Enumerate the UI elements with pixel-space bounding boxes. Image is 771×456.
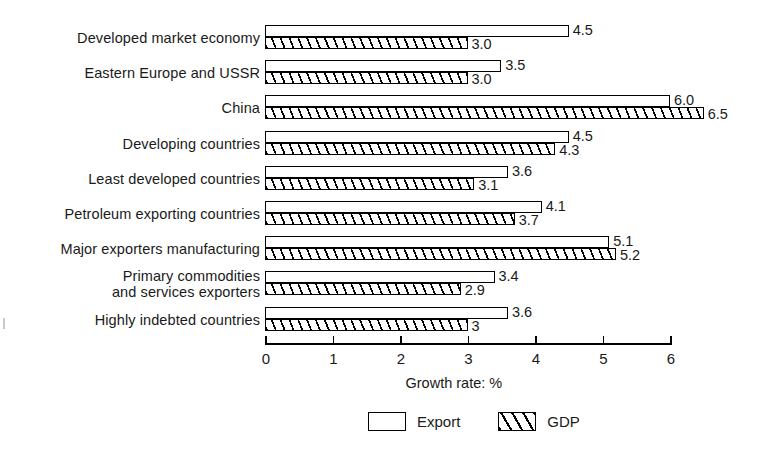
bar-export <box>265 95 670 107</box>
bar-chart: Developed market economyEastern Europe a… <box>0 0 771 456</box>
bar-value-label: 3.1 <box>478 178 498 192</box>
empty-rectangle-swatch <box>368 412 406 431</box>
legend-label: Export <box>417 413 460 430</box>
bar-value-label: 5.2 <box>620 248 640 262</box>
x-axis-tick <box>333 336 335 343</box>
bar-gdp <box>265 213 515 225</box>
bar-value-label: 3.7 <box>519 213 539 227</box>
category-label: Developing countries <box>123 136 260 152</box>
bar-value-label: 3.4 <box>499 269 519 283</box>
bar-value-label: 3.6 <box>512 164 532 178</box>
x-axis-tick-label: 4 <box>524 350 548 367</box>
x-axis-tick-label: 0 <box>254 350 278 367</box>
bar-value-label: 6.5 <box>708 107 728 121</box>
bar-value-label: 6.0 <box>674 93 694 107</box>
x-axis-tick-label: 3 <box>456 350 480 367</box>
legend-item: GDP <box>498 412 580 431</box>
bar-export <box>265 131 569 143</box>
bar-value-label: 4.3 <box>559 143 579 157</box>
x-axis-tick-label: 2 <box>389 350 413 367</box>
category-label: Developed market economy <box>77 30 260 46</box>
x-axis-tick-label: 6 <box>659 350 683 367</box>
bar-export <box>265 307 508 319</box>
bar-value-label: 3.6 <box>512 305 532 319</box>
x-axis-tick <box>400 336 402 343</box>
bar-gdp <box>265 248 616 260</box>
bar-gdp <box>265 37 468 49</box>
x-axis-title: Growth rate: % <box>406 375 503 391</box>
legend-item: Export <box>368 412 460 431</box>
x-axis-tick-label: 5 <box>591 350 615 367</box>
bar-value-label: 3.0 <box>472 72 492 86</box>
bar-value-label: 5.1 <box>613 234 633 248</box>
x-axis-tick <box>603 336 605 343</box>
scan-artifact <box>3 318 5 329</box>
bar-gdp <box>265 178 474 190</box>
x-axis-tick <box>670 336 672 343</box>
bar-export <box>265 201 542 213</box>
bar-gdp <box>265 319 468 331</box>
x-axis-line <box>265 343 672 345</box>
bar-value-label: 3.5 <box>505 58 525 72</box>
bar-value-label: 4.5 <box>573 23 593 37</box>
category-label: Eastern Europe and USSR <box>84 65 260 81</box>
bar-value-label: 3.0 <box>472 37 492 51</box>
category-label: Highly indebted countries <box>95 312 260 328</box>
bar-export <box>265 271 495 283</box>
bar-value-label: 2.9 <box>465 283 485 297</box>
category-label: China <box>222 100 260 116</box>
x-axis-tick-label: 1 <box>321 350 345 367</box>
category-label: Least developed countries <box>88 171 260 187</box>
bar-export <box>265 60 501 72</box>
category-label: Major exporters manufacturing <box>60 241 260 257</box>
x-axis-tick <box>535 336 537 343</box>
bar-gdp <box>265 143 555 155</box>
category-label: Petroleum exporting countries <box>64 206 260 222</box>
bar-export <box>265 166 508 178</box>
x-axis-tick <box>265 336 267 343</box>
chart-legend: ExportGDP <box>368 412 580 431</box>
x-axis-tick <box>468 336 470 343</box>
bar-export <box>265 25 569 37</box>
bar-gdp <box>265 72 468 84</box>
bar-value-label: 4.1 <box>546 199 566 213</box>
legend-label: GDP <box>547 413 580 430</box>
bar-export <box>265 236 609 248</box>
bar-gdp <box>265 107 704 119</box>
category-label: Primary commodities and services exporte… <box>112 268 260 300</box>
bar-value-label: 3 <box>472 319 480 333</box>
bar-value-label: 4.5 <box>573 129 593 143</box>
hatched-rectangle-swatch <box>498 412 536 431</box>
bar-gdp <box>265 283 461 295</box>
